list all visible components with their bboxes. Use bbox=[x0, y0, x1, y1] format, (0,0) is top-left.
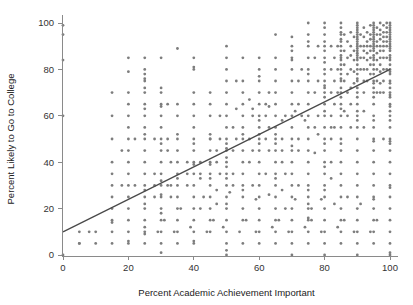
data-point bbox=[274, 219, 277, 222]
data-point bbox=[340, 138, 343, 141]
data-point bbox=[389, 126, 392, 129]
data-point bbox=[143, 226, 146, 229]
data-point bbox=[281, 138, 284, 141]
data-point bbox=[297, 103, 300, 106]
data-point bbox=[389, 96, 392, 99]
data-point bbox=[160, 184, 163, 187]
data-point bbox=[346, 56, 349, 59]
data-point bbox=[330, 114, 333, 117]
data-point bbox=[166, 184, 169, 187]
data-point bbox=[389, 196, 392, 199]
data-point bbox=[359, 203, 362, 206]
data-point bbox=[176, 47, 179, 50]
data-point bbox=[291, 59, 294, 62]
data-point bbox=[320, 230, 323, 233]
data-point bbox=[274, 172, 277, 175]
data-point bbox=[160, 230, 163, 233]
data-point bbox=[307, 68, 310, 71]
data-point bbox=[143, 161, 146, 164]
data-point bbox=[235, 80, 238, 83]
data-point bbox=[209, 172, 212, 175]
data-point bbox=[323, 56, 326, 59]
data-point bbox=[330, 161, 333, 164]
data-point bbox=[264, 172, 267, 175]
data-point bbox=[307, 172, 310, 175]
data-point bbox=[359, 33, 362, 36]
data-point bbox=[274, 103, 277, 106]
data-point bbox=[241, 184, 244, 187]
data-point bbox=[379, 38, 382, 41]
data-point bbox=[389, 49, 392, 52]
data-point bbox=[323, 114, 326, 117]
y-tick-label: 80 bbox=[43, 64, 54, 75]
data-point bbox=[176, 219, 179, 222]
data-point bbox=[235, 138, 238, 141]
data-point bbox=[297, 80, 300, 83]
data-point bbox=[372, 126, 375, 129]
data-point bbox=[170, 161, 173, 164]
data-point bbox=[232, 184, 235, 187]
data-point bbox=[209, 114, 212, 117]
data-point bbox=[160, 149, 163, 152]
data-point bbox=[323, 189, 326, 192]
data-point bbox=[241, 219, 244, 222]
data-point bbox=[356, 63, 359, 66]
data-point bbox=[209, 196, 212, 199]
data-point bbox=[356, 230, 359, 233]
data-point bbox=[274, 177, 277, 180]
data-point bbox=[379, 29, 382, 32]
data-point bbox=[366, 59, 369, 62]
data-point bbox=[389, 172, 392, 175]
data-point bbox=[241, 126, 244, 129]
data-point bbox=[389, 142, 392, 145]
data-point bbox=[291, 219, 294, 222]
data-point bbox=[340, 59, 343, 62]
data-point bbox=[111, 172, 114, 175]
data-point bbox=[160, 56, 163, 59]
y-tick-label: 60 bbox=[43, 110, 54, 121]
data-point bbox=[173, 230, 176, 233]
data-point bbox=[166, 138, 169, 141]
data-point bbox=[313, 126, 316, 129]
data-point bbox=[340, 80, 343, 83]
data-point bbox=[372, 49, 375, 52]
data-point bbox=[291, 114, 294, 117]
data-point bbox=[274, 207, 277, 210]
data-point bbox=[192, 103, 195, 106]
data-point bbox=[307, 184, 310, 187]
data-point bbox=[111, 91, 114, 94]
data-point bbox=[127, 149, 130, 152]
data-point bbox=[176, 133, 179, 136]
data-point bbox=[356, 149, 359, 152]
data-point bbox=[143, 103, 146, 106]
data-point bbox=[379, 70, 382, 73]
data-point bbox=[176, 149, 179, 152]
data-point bbox=[268, 91, 271, 94]
data-point bbox=[385, 31, 388, 34]
data-point bbox=[320, 198, 323, 201]
data-point bbox=[340, 87, 343, 90]
data-point bbox=[215, 149, 218, 152]
data-point bbox=[323, 96, 326, 99]
x-tick-label: 40 bbox=[189, 262, 200, 273]
data-point bbox=[379, 49, 382, 52]
data-point bbox=[317, 114, 320, 117]
data-point bbox=[192, 219, 195, 222]
data-point bbox=[176, 230, 179, 233]
data-point bbox=[291, 45, 294, 48]
data-point bbox=[160, 219, 163, 222]
data-point bbox=[369, 56, 372, 59]
data-point bbox=[143, 87, 146, 90]
data-point bbox=[307, 22, 310, 25]
data-point bbox=[323, 172, 326, 175]
y-tick-label: 100 bbox=[38, 17, 54, 28]
data-point bbox=[241, 56, 244, 59]
data-point bbox=[120, 184, 123, 187]
data-point bbox=[323, 61, 326, 64]
data-point bbox=[225, 114, 228, 117]
data-point bbox=[127, 230, 130, 233]
data-point bbox=[281, 189, 284, 192]
data-point bbox=[192, 91, 195, 94]
data-point bbox=[245, 219, 248, 222]
data-point bbox=[153, 172, 156, 175]
